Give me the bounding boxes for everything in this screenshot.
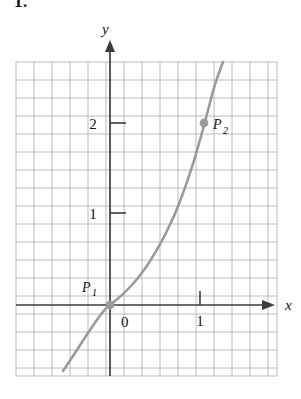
y-tick-label-2: 2 [89,116,97,132]
grid-lines [16,62,277,376]
figure-root: 1. [0,0,301,399]
x-axis-arrow [262,300,275,310]
origin-label: 0 [121,314,129,330]
x-tick-label-1: 1 [196,313,204,329]
y-axis [105,40,115,376]
y-axis-label: y [100,21,109,37]
x-axis [16,300,275,310]
grid-lines-vertical [16,62,277,376]
x-axis-label: x [284,297,292,313]
point-p1-label: P 1 [81,280,97,298]
point-p1-label-text: P [81,280,91,295]
y-tick-label-1: 1 [89,206,97,222]
point-p1-marker[interactable] [106,301,115,310]
point-p2-label-subscript: 2 [223,125,228,136]
grid-lines-horizontal [16,62,277,376]
y-axis-arrow [105,40,115,52]
point-p2-label-text: P [212,117,222,132]
point-p2-marker[interactable] [200,119,209,128]
point-p1-label-subscript: 1 [92,287,97,298]
coordinate-plane-graph: y x 2 1 1 0 P 1 P 2 [0,0,301,399]
